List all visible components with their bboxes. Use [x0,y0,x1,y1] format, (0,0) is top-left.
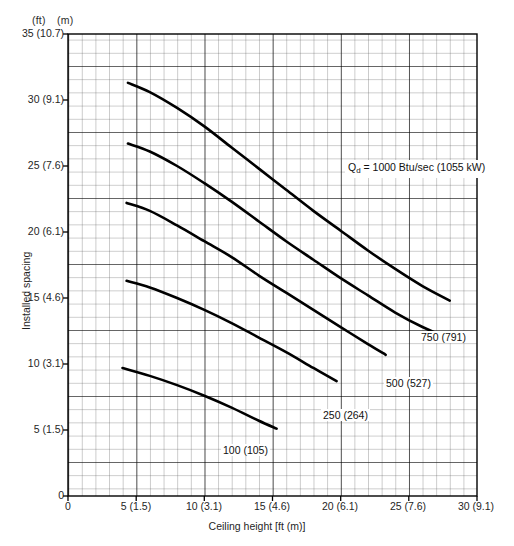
y-tick-label-35: 35 (10.7) [0,27,64,39]
annotation-curve-750: 750 (791) [419,331,468,343]
y-unit-header-m: (m) [57,14,73,26]
qd-symbol: Q [348,161,356,173]
figure-container: (ft) (m) 35 (10.7) 30 (9.1) 25 (7.6) 20 … [0,0,514,546]
y-unit-header-ft: (ft) [32,14,46,26]
y-tick-label-30: 30 (9.1) [0,93,64,105]
y-tick-label-5: 5 (1.5) [0,423,64,435]
x-axis-title: Ceiling height [ft (m)] [0,520,514,532]
qd-rest: = 1000 Btu/sec (1055 kW) [361,161,486,173]
y-tick-label-25: 25 (7.6) [0,159,64,171]
plot-svg [0,0,514,546]
y-tick-label-10: 10 (3.1) [0,357,64,369]
annotation-curve-250: 250 (264) [321,409,370,421]
annotation-curve-100: 100 (105) [221,444,270,456]
y-axis-title: Installed spacing [20,252,32,330]
x-tick-label-30: 30 (9.1) [436,500,514,512]
x-tick-label-0: 0 [48,500,88,512]
y-tick-label-15: 15 (4.6) [0,291,64,303]
annotation-curve-500: 500 (527) [384,377,433,389]
annotation-qd-1000: Qd = 1000 Btu/sec (1055 kW) [345,160,488,178]
y-tick-label-20: 20 (6.1) [0,225,64,237]
